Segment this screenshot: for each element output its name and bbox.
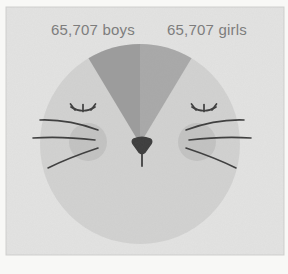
screenshot-root: 65,707 boys 65,707 girls — [0, 0, 288, 274]
cat-pie-chart — [0, 0, 288, 274]
boys-label: 65,707 boys — [32, 21, 154, 38]
noise-texture — [6, 7, 284, 255]
girls-label: 65,707 girls — [146, 21, 268, 38]
